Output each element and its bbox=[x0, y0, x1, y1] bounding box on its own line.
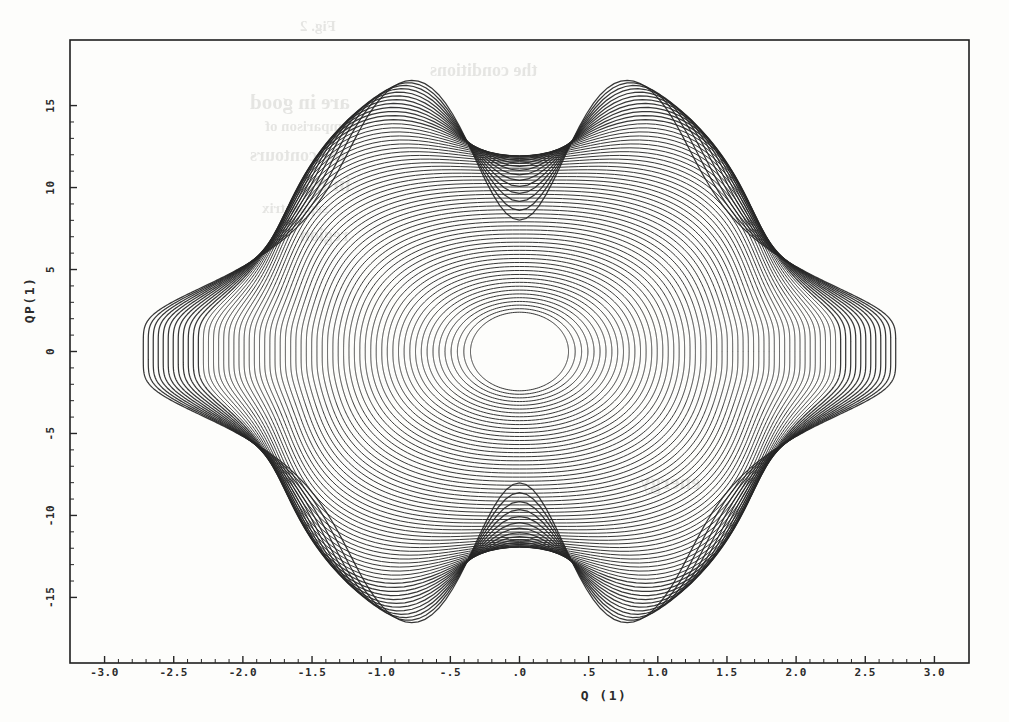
contour-curve bbox=[291, 187, 749, 516]
contour-curve bbox=[275, 177, 764, 527]
contour-curve bbox=[398, 267, 640, 437]
x-tick-label: 2.5 bbox=[855, 666, 876, 679]
x-tick-label: -1.0 bbox=[367, 666, 396, 679]
y-tick-label: 15 bbox=[44, 98, 57, 112]
contour-curve bbox=[296, 191, 743, 513]
x-tick-label: .5 bbox=[582, 666, 596, 679]
contour-curve bbox=[270, 173, 769, 530]
contour-curve bbox=[365, 242, 673, 461]
contour-curve bbox=[360, 238, 679, 465]
contour-curve bbox=[445, 298, 594, 406]
x-tick-label: -3.0 bbox=[90, 666, 119, 679]
contour-curve bbox=[265, 170, 775, 534]
x-tick-label: -1.5 bbox=[298, 666, 327, 679]
y-tick-label: 10 bbox=[44, 180, 57, 194]
contour-curve bbox=[464, 309, 575, 395]
contour-curve bbox=[198, 120, 840, 584]
contour-curve bbox=[208, 128, 830, 575]
y-axis-title: QP(1) bbox=[22, 277, 37, 324]
x-tick-label: 1.5 bbox=[716, 666, 737, 679]
y-tick-label: 5 bbox=[44, 266, 57, 273]
contour-curve bbox=[301, 194, 738, 508]
y-tick-label: 0 bbox=[44, 348, 57, 355]
contour-curve bbox=[168, 96, 871, 607]
contour-curve bbox=[317, 206, 722, 497]
contour-curve bbox=[439, 294, 600, 409]
contour-curve bbox=[382, 254, 658, 448]
y-tick-label: -5 bbox=[44, 426, 57, 440]
contour-curve bbox=[333, 218, 706, 486]
contour-curve bbox=[457, 305, 581, 398]
y-tick-label: -15 bbox=[44, 587, 57, 608]
contour-curve bbox=[158, 89, 881, 615]
x-tick-label: -.5 bbox=[440, 666, 461, 679]
x-axis-title: Q (1) bbox=[581, 688, 628, 703]
y-tick-label: -10 bbox=[44, 505, 57, 526]
x-tick-label: -2.0 bbox=[229, 666, 258, 679]
axis-ticks bbox=[70, 106, 934, 663]
contour-curve bbox=[471, 312, 569, 391]
contour-curve bbox=[173, 100, 866, 604]
x-tick-label: 2.0 bbox=[785, 666, 806, 679]
contour-curve bbox=[328, 214, 712, 490]
contour-curve bbox=[280, 180, 759, 523]
x-tick-label: .0 bbox=[512, 666, 526, 679]
contour-plot-canvas: -3.0-2.5-2.0-1.5-1.0-.5.0.51.01.52.02.53… bbox=[0, 0, 1009, 722]
contour-curve bbox=[416, 278, 624, 424]
x-tick-label: 1.0 bbox=[647, 666, 668, 679]
x-tick-label: 3.0 bbox=[924, 666, 945, 679]
contour-curve bbox=[219, 136, 821, 567]
axis-tick-labels: -3.0-2.5-2.0-1.5-1.0-.5.0.51.01.52.02.53… bbox=[44, 98, 945, 679]
phase-space-plot: -3.0-2.5-2.0-1.5-1.0-.5.0.51.01.52.02.53… bbox=[0, 0, 1009, 722]
contour-curve bbox=[393, 262, 646, 440]
contour-curve bbox=[451, 301, 588, 401]
contour-curves bbox=[143, 80, 895, 622]
axes-frame bbox=[70, 40, 969, 663]
x-tick-label: -2.5 bbox=[159, 666, 188, 679]
contour-curve bbox=[376, 250, 663, 452]
contour-curve bbox=[427, 286, 612, 417]
